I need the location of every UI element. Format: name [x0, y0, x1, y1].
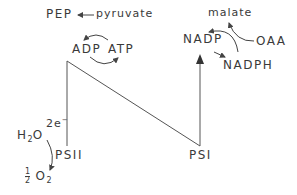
nadph-label: NADPH	[223, 58, 273, 72]
fraction-numerator: 1	[25, 168, 30, 176]
adp-atp-lower-arc-icon	[90, 57, 118, 64]
z-scheme-diagram	[0, 0, 297, 195]
electrons-text: 2e	[46, 117, 62, 130]
electrons-label: 2e−	[46, 116, 69, 130]
water-subscript: 2	[28, 135, 33, 144]
atp-label: ATP	[108, 42, 134, 56]
adp-atp-upper-arc-icon	[84, 35, 108, 40]
z-scheme-path	[67, 60, 200, 146]
water-h: H	[17, 128, 28, 142]
fraction-denominator: 2	[25, 176, 30, 185]
half-fraction: 12	[25, 168, 30, 185]
oxygen-o: O	[35, 169, 46, 183]
pep-label: PEP	[46, 7, 73, 21]
water-label: H2O	[17, 128, 44, 142]
nadp-to-nadph-arrow	[214, 52, 225, 57]
oaa-label: OAA	[256, 34, 287, 48]
psi-arrow-head-icon	[196, 54, 204, 64]
pyruvate-label: pyruvate	[96, 7, 153, 20]
electrons-charge: −	[62, 116, 69, 124]
nadp-label: NADP	[183, 32, 223, 46]
psii-label: PSII	[55, 148, 83, 162]
malate-label: malate	[208, 6, 252, 19]
water-to-oxygen-arrow	[47, 140, 52, 170]
adp-label: ADP	[72, 42, 101, 56]
psi-label: PSI	[189, 148, 212, 162]
oxygen-label: 12 O2	[25, 168, 51, 185]
oxygen-subscript: 2	[46, 176, 51, 185]
water-o: O	[33, 128, 44, 142]
